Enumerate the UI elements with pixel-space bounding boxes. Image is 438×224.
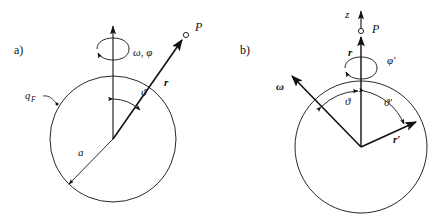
panel-a-radius-a-line xyxy=(69,139,113,184)
panel-b-vector-omega xyxy=(292,76,361,147)
diagram-canvas: a) q F ω, φ P r ϑ a xyxy=(0,0,438,224)
panel-a: a) q F ω, φ P r ϑ a xyxy=(14,20,203,202)
panel-b: b) z P r φ′ ω ϑ ϑ′ r′ xyxy=(240,8,427,213)
panel-b-label-vector-r: r xyxy=(348,46,353,58)
panel-a-label-vector-r: r xyxy=(164,76,169,88)
panel-a-theta-arc xyxy=(113,99,140,110)
panel-b-label-theta-prime: ϑ′ xyxy=(384,96,392,108)
panel-b-vector-r-prime xyxy=(361,122,416,147)
panel-b-label-z-axis: z xyxy=(344,8,350,20)
panel-b-label-theta: ϑ xyxy=(345,95,351,107)
panel-a-label-q: q xyxy=(25,90,30,101)
panel-a-label-omega-phi: ω, φ xyxy=(133,46,152,58)
panel-a-point-p-marker xyxy=(183,32,188,37)
panel-b-label-vector-r-prime: r′ xyxy=(393,133,400,145)
panel-a-label-point-p: P xyxy=(194,20,203,34)
panel-a-qf-surface-dot xyxy=(56,103,59,106)
panel-b-theta-arc xyxy=(321,91,358,107)
panel-b-label-point-p: P xyxy=(371,22,380,36)
panel-b-point-p-marker xyxy=(358,28,363,33)
panel-a-tag: a) xyxy=(14,43,23,57)
panel-a-qf-leader-line xyxy=(43,96,56,103)
panel-b-tag: b) xyxy=(240,43,250,57)
panel-b-label-omega: ω xyxy=(276,80,284,92)
panel-a-label-q-subscript: F xyxy=(30,95,36,104)
physics-figure: a) q F ω, φ P r ϑ a xyxy=(0,0,438,224)
panel-a-label-theta: ϑ xyxy=(141,86,147,98)
panel-a-label-radius-a: a xyxy=(78,146,84,158)
panel-b-label-phi-prime: φ′ xyxy=(387,54,396,66)
